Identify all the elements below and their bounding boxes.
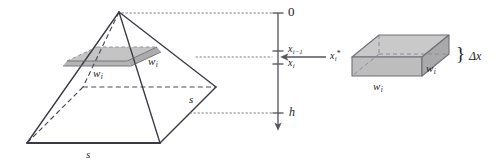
- prism-width-label-front: wi: [373, 81, 383, 94]
- prism-width-right-subscript: i: [433, 67, 435, 76]
- pyramid-hidden-edges: [27, 12, 216, 143]
- axis-label-xi-subscript: i: [292, 62, 294, 69]
- pyramid-base-front-label: s: [86, 149, 90, 160]
- slab-width-right-subscript: i: [155, 60, 157, 69]
- slab-width-front-subscript: i: [100, 72, 102, 81]
- axis-label-xi: xi: [288, 58, 295, 70]
- edge-back-left-to-front-left: [27, 87, 83, 143]
- edge-apex-to-front-right: [119, 12, 160, 143]
- depth-axis-group: [273, 13, 327, 127]
- base-edge-right: [160, 87, 216, 143]
- prism-width-label-right: wi: [426, 63, 436, 76]
- prism-front-face: [352, 57, 422, 76]
- sample-point-label: xi*: [330, 50, 341, 63]
- slab-front-face: [63, 61, 131, 66]
- axis-label-h: h: [289, 106, 295, 118]
- axis-label-xi-minus-1-subscript: i−1: [292, 48, 302, 55]
- guide-lines-group: [122, 13, 272, 113]
- pyramid-base-right-label: s: [189, 94, 193, 105]
- thickness-brace: }: [456, 44, 465, 63]
- pyramid-slicing-figure: s s wi wi 0 xi−1 xi h xi* wi wi } Δx: [0, 0, 502, 165]
- sample-point-superscript: *: [337, 49, 341, 58]
- pyramid-visible-edges: [27, 12, 216, 143]
- slab-shading-group: [63, 47, 161, 66]
- thickness-label: Δx: [469, 50, 481, 62]
- edge-apex-to-front-left: [27, 12, 119, 143]
- figure-canvas: [0, 0, 502, 165]
- axis-label-zero: 0: [288, 5, 295, 18]
- slab-width-label-right: wi: [148, 56, 158, 69]
- axis-label-xi-minus-1: xi−1: [288, 44, 303, 56]
- slab-width-label-front: wi: [93, 68, 103, 81]
- prism-width-front-subscript: i: [380, 85, 382, 94]
